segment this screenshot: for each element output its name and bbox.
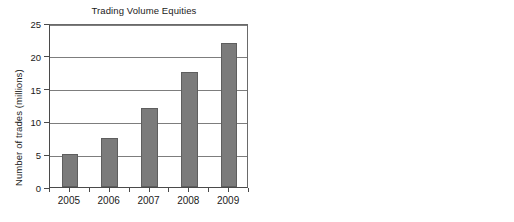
gridline xyxy=(50,25,247,26)
gridline xyxy=(50,57,247,58)
x-axis-separator xyxy=(208,188,209,192)
x-axis-separator xyxy=(168,188,169,192)
y-tick-label: 5 xyxy=(15,150,41,161)
y-tick-label: 15 xyxy=(15,84,41,95)
x-tick-mark xyxy=(188,188,189,192)
y-tick-mark xyxy=(44,89,49,90)
x-tick-label-2007: 2007 xyxy=(137,195,159,206)
two-panel-bar-chart-figure: Trading Volume Equities Number of trades… xyxy=(0,0,514,222)
x-tick-label-2005: 2005 xyxy=(58,195,80,206)
x-tick-mark xyxy=(69,188,70,192)
y-tick-label: 20 xyxy=(15,51,41,62)
bar-2005 xyxy=(62,154,79,187)
y-tick-label: 0 xyxy=(15,183,41,194)
chart-panel-equities: Trading Volume Equities Number of trades… xyxy=(0,0,257,222)
bar-2008 xyxy=(181,72,198,187)
chart-title-equities: Trading Volume Equities xyxy=(40,5,248,16)
bar-2009 xyxy=(221,43,238,187)
bar-2007 xyxy=(141,108,158,187)
x-axis-separator xyxy=(89,188,90,192)
gridline xyxy=(50,90,247,91)
x-tick-mark xyxy=(228,188,229,192)
x-tick-label-2009: 2009 xyxy=(217,195,239,206)
chart-panel-equity-derivatives: Trading VolumeEquity Derivatives Number … xyxy=(257,0,514,222)
x-tick-label-2008: 2008 xyxy=(177,195,199,206)
y-tick-label: 25 xyxy=(15,19,41,30)
y-tick-mark xyxy=(44,56,49,57)
y-tick-label: 10 xyxy=(15,117,41,128)
bar-2006 xyxy=(101,138,118,187)
x-axis-separator xyxy=(49,188,50,192)
x-tick-label-2006: 2006 xyxy=(98,195,120,206)
x-axis-separator xyxy=(248,188,249,192)
plot-area-equities xyxy=(49,24,248,188)
x-tick-mark xyxy=(149,188,150,192)
x-axis-separator xyxy=(129,188,130,192)
y-tick-mark xyxy=(44,122,49,123)
x-tick-mark xyxy=(109,188,110,192)
y-tick-mark xyxy=(44,155,49,156)
y-tick-mark xyxy=(44,24,49,25)
